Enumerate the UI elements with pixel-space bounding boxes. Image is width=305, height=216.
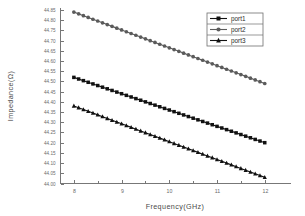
data-point-marker xyxy=(196,118,200,122)
data-point-marker xyxy=(177,112,181,116)
data-point-marker xyxy=(206,121,210,125)
y-tick-label: 44.45 xyxy=(44,90,56,95)
data-point-marker xyxy=(220,66,224,70)
x-axis-title: Frequency(GHz) xyxy=(146,202,205,211)
data-point-marker xyxy=(72,10,76,14)
data-point-marker xyxy=(101,85,105,89)
x-tick-label: 10 xyxy=(167,188,173,194)
data-point-marker xyxy=(187,53,191,57)
data-point-marker xyxy=(215,64,219,68)
data-point-marker xyxy=(72,76,76,80)
data-point-marker xyxy=(239,73,243,77)
y-tick-label: 44.70 xyxy=(44,39,56,44)
data-point-marker xyxy=(91,17,95,21)
data-point-marker xyxy=(86,81,90,85)
y-tick-label: 44.30 xyxy=(44,120,56,125)
data-point-marker xyxy=(253,78,257,82)
data-point-marker xyxy=(144,100,148,104)
data-point-marker xyxy=(158,42,162,46)
data-point-marker xyxy=(139,98,143,102)
legend-label-port2[interactable]: port2 xyxy=(231,26,246,34)
data-point-marker xyxy=(215,125,219,129)
y-tick-label: 44.15 xyxy=(44,151,56,156)
data-point-marker xyxy=(134,97,138,101)
legend-label-port1[interactable]: port1 xyxy=(231,15,246,23)
data-point-marker xyxy=(249,136,253,140)
x-axis-tick-labels: 89101112 xyxy=(73,188,268,194)
y-tick-label: 44.80 xyxy=(44,18,56,23)
data-point-marker xyxy=(86,16,90,20)
data-point-marker xyxy=(148,102,152,106)
data-point-marker xyxy=(144,37,148,41)
data-point-marker xyxy=(101,21,105,25)
data-point-marker xyxy=(77,12,81,16)
data-point-marker xyxy=(230,69,234,73)
data-point-marker xyxy=(96,19,100,23)
x-axis-ticks xyxy=(75,180,266,184)
y-tick-label: 44.25 xyxy=(44,130,56,135)
data-point-marker xyxy=(120,28,124,32)
data-point-marker xyxy=(125,94,129,98)
data-point-marker xyxy=(110,25,114,29)
data-point-marker xyxy=(120,92,124,96)
y-tick-label: 44.40 xyxy=(44,100,56,105)
y-axis-tick-labels: 44.0044.0544.1044.1544.2044.2544.3044.35… xyxy=(44,8,56,187)
y-axis-title: Impedance(Ω) xyxy=(6,71,15,122)
data-point-marker xyxy=(182,51,186,55)
data-point-marker xyxy=(220,126,224,130)
data-point-marker xyxy=(216,27,220,31)
data-point-marker xyxy=(163,44,167,48)
data-point-marker xyxy=(105,23,109,27)
data-point-marker xyxy=(225,128,229,132)
data-point-marker xyxy=(201,120,205,124)
y-tick-label: 44.10 xyxy=(44,161,56,166)
data-point-marker xyxy=(125,30,129,34)
legend-label-port3[interactable]: port3 xyxy=(231,37,246,45)
data-point-marker xyxy=(72,104,76,108)
data-point-marker xyxy=(217,17,221,21)
data-point-marker xyxy=(211,123,215,127)
data-point-marker xyxy=(148,39,152,43)
y-tick-label: 44.50 xyxy=(44,79,56,84)
y-tick-label: 44.35 xyxy=(44,110,56,115)
data-point-marker xyxy=(158,105,162,109)
data-point-marker xyxy=(239,133,243,137)
data-point-marker xyxy=(187,115,191,119)
data-point-marker xyxy=(244,75,248,79)
data-point-marker xyxy=(153,41,157,45)
data-point-marker xyxy=(230,130,234,134)
y-tick-label: 44.00 xyxy=(44,182,56,187)
data-point-marker xyxy=(258,80,262,84)
data-point-marker xyxy=(77,77,81,81)
data-point-marker xyxy=(201,58,205,62)
data-point-marker xyxy=(234,71,238,75)
data-point-marker xyxy=(225,67,229,71)
data-point-marker xyxy=(182,113,186,117)
x-tick-label: 11 xyxy=(215,188,220,194)
data-point-marker xyxy=(263,141,267,145)
chart-canvas: 44.0044.0544.1044.1544.2044.2544.3044.35… xyxy=(0,0,305,216)
data-point-marker xyxy=(249,76,253,80)
y-tick-label: 44.05 xyxy=(44,171,56,176)
y-tick-label: 44.75 xyxy=(44,28,56,33)
data-point-marker xyxy=(234,131,238,135)
data-point-marker xyxy=(153,103,157,107)
data-point-marker xyxy=(167,46,171,50)
x-tick-label: 9 xyxy=(121,188,124,194)
impedance-vs-frequency-chart: 44.0044.0544.1044.1544.2044.2544.3044.35… xyxy=(0,0,305,216)
x-tick-label: 8 xyxy=(73,188,76,194)
chart-legend[interactable]: port1port2port3 xyxy=(207,13,263,46)
series-port3 xyxy=(72,104,267,179)
data-point-marker xyxy=(258,139,262,143)
data-point-marker xyxy=(244,134,248,138)
y-tick-label: 44.65 xyxy=(44,49,56,54)
data-point-marker xyxy=(106,87,110,91)
data-point-marker xyxy=(206,60,210,64)
x-tick-label: 12 xyxy=(263,188,269,194)
y-tick-label: 44.55 xyxy=(44,69,56,74)
data-point-marker xyxy=(91,82,95,86)
y-tick-label: 44.85 xyxy=(44,8,56,13)
y-tick-label: 44.20 xyxy=(44,141,56,146)
data-point-marker xyxy=(172,110,176,114)
data-point-marker xyxy=(139,35,143,39)
